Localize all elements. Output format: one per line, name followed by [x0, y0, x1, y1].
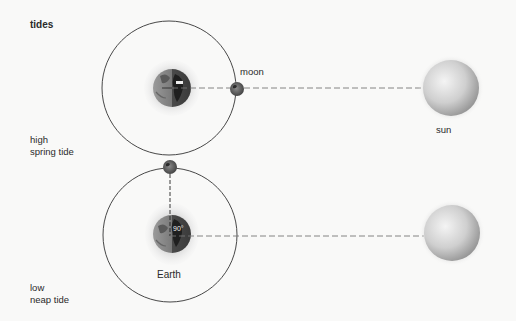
- moon-icon: [163, 160, 177, 174]
- neap-tide-label-line1: low: [30, 282, 44, 294]
- spring-tide-panel: [102, 21, 484, 155]
- moon-label: moon: [240, 66, 264, 78]
- angle-label: 90°: [173, 225, 184, 233]
- moon-icon: [230, 82, 244, 96]
- earth-label: Earth: [157, 269, 181, 281]
- spring-tide-label-line1: high: [30, 134, 48, 146]
- neap-tide-label-line2: neap tide: [30, 294, 69, 306]
- spring-tide-label-line2: spring tide: [30, 146, 74, 158]
- sun-icon: [418, 55, 484, 121]
- sun-icon: [419, 200, 485, 266]
- sun-label: sun: [436, 124, 451, 136]
- earth-icon: [153, 215, 191, 253]
- diagram-title: tides: [30, 19, 53, 31]
- tides-diagram: [0, 0, 516, 321]
